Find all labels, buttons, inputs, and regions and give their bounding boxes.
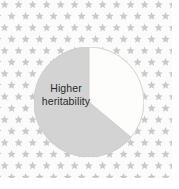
higher-heritability-label: Higher heritability bbox=[26, 82, 106, 107]
label-line-1: Higher bbox=[26, 82, 106, 95]
label-line-2: heritability bbox=[26, 95, 106, 108]
pie-chart-figure: Higher heritability bbox=[0, 0, 179, 189]
